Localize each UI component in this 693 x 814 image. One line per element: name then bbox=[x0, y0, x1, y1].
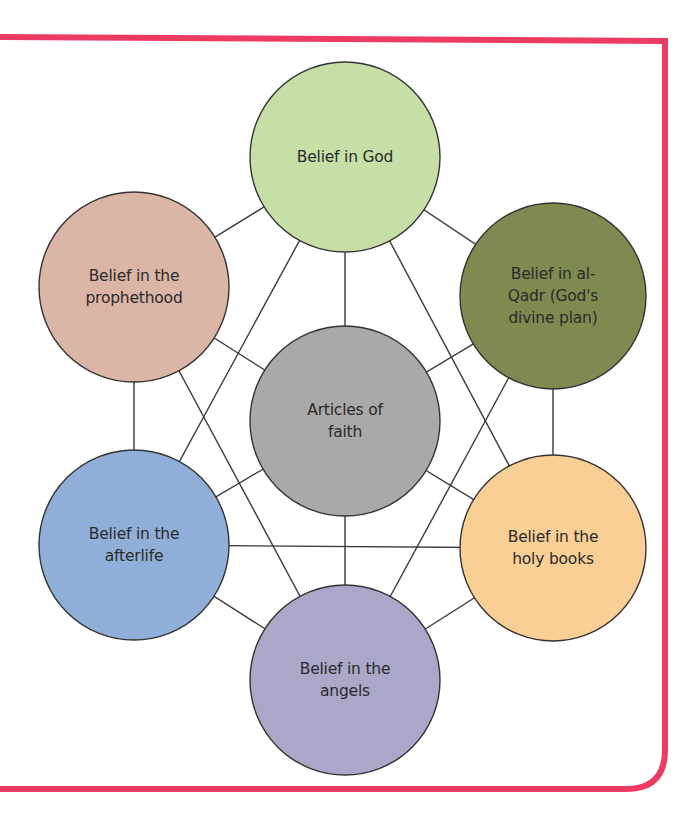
node-label-center: Articles of faith bbox=[307, 399, 382, 443]
node-label-god: Belief in God bbox=[297, 146, 394, 168]
node-label-afterlife: Belief in the afterlife bbox=[89, 523, 180, 567]
node-label-angels: Belief in the angels bbox=[300, 658, 391, 702]
node-label-holy-books: Belief in the holy books bbox=[508, 526, 599, 570]
node-label-qadr: Belief in al- Qadr (God's divine plan) bbox=[508, 263, 598, 329]
node-label-prophethood: Belief in the prophethood bbox=[85, 265, 182, 309]
